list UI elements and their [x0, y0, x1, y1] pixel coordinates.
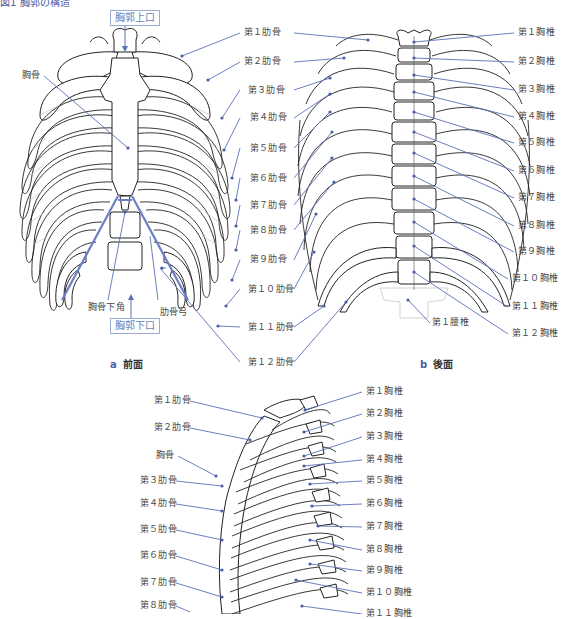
- lateral-t8-label: 第８胸椎: [366, 544, 403, 555]
- lateral-t6-label: 第６胸椎: [366, 498, 403, 509]
- vertebra-t7-label: 第７胸椎: [518, 192, 555, 203]
- rib-5-label: 第５肋骨: [250, 143, 287, 154]
- caption-anterior-letter: a: [110, 359, 117, 370]
- lateral-rib-8-label: 第８肋骨: [140, 600, 177, 611]
- infrasternal-angle-label: 胸骨下角: [88, 302, 125, 313]
- lateral-rib-1-label: 第１肋骨: [154, 395, 191, 406]
- rib-10-label: 第１０肋骨: [248, 284, 294, 295]
- vertebra-t12-label: 第１２胸椎: [512, 328, 558, 339]
- lumbar-l1-label: 第１腰椎: [432, 317, 469, 328]
- lateral-t11-label: 第１１胸椎: [366, 608, 412, 619]
- lateral-t7-label: 第７胸椎: [366, 521, 403, 532]
- vertebra-t4-label: 第４胸椎: [518, 111, 555, 122]
- vertebra-t10-label: 第１０胸椎: [512, 273, 558, 284]
- posterior-view: [294, 30, 530, 362]
- rib-1-label: 第１肋骨: [244, 27, 281, 38]
- lateral-rib-5-label: 第５肋骨: [140, 524, 177, 535]
- rib-4-label: 第４肋骨: [250, 112, 287, 123]
- superior-thoracic-aperture-label: 胸郭上口: [110, 10, 160, 26]
- caption-anterior: a前面: [110, 356, 143, 371]
- sternum-label: 胸骨: [22, 70, 40, 81]
- vertebra-t11-label: 第１１胸椎: [512, 301, 558, 312]
- vertebra-t1-label: 第１胸椎: [518, 27, 555, 38]
- rib-11-label: 第１１肋骨: [248, 322, 294, 333]
- lateral-sternum-label: 胸骨: [156, 450, 174, 461]
- lateral-rib-6-label: 第６肋骨: [140, 550, 177, 561]
- rib-2-label: 第２肋骨: [244, 56, 281, 67]
- inferior-thoracic-aperture-label: 胸郭下口: [110, 318, 160, 334]
- lateral-rib-7-label: 第７肋骨: [140, 577, 177, 588]
- rib-8-label: 第８肋骨: [250, 225, 287, 236]
- lateral-t3-label: 第３胸椎: [366, 431, 403, 442]
- rib-7-label: 第７肋骨: [250, 200, 287, 211]
- anterior-view: [20, 26, 240, 362]
- rib-6-label: 第６肋骨: [250, 173, 287, 184]
- rib-12-label: 第１２肋骨: [248, 357, 294, 368]
- vertebra-t6-label: 第６胸椎: [518, 165, 555, 176]
- caption-posterior: b後面: [420, 356, 453, 371]
- vertebra-t2-label: 第２胸椎: [518, 56, 555, 67]
- vertebra-t5-label: 第５胸椎: [518, 137, 555, 148]
- lateral-rib-4-label: 第４肋骨: [140, 498, 177, 509]
- lateral-t9-label: 第９胸椎: [366, 565, 403, 576]
- caption-anterior-text: 前面: [123, 359, 143, 370]
- lateral-t1-label: 第１胸椎: [366, 386, 403, 397]
- lateral-t5-label: 第５胸椎: [366, 475, 403, 486]
- caption-posterior-text: 後面: [433, 359, 453, 370]
- lateral-rib-3-label: 第３肋骨: [140, 475, 177, 486]
- caption-posterior-letter: b: [420, 359, 427, 370]
- lateral-rib-2-label: 第２肋骨: [154, 422, 191, 433]
- lateral-view: [176, 392, 362, 614]
- vertebra-t3-label: 第３胸椎: [518, 84, 555, 95]
- vertebra-t9-label: 第９胸椎: [518, 246, 555, 257]
- rib-9-label: 第９肋骨: [250, 254, 287, 265]
- vertebra-t8-label: 第８胸椎: [518, 220, 555, 231]
- lateral-t2-label: 第２胸椎: [366, 408, 403, 419]
- rib-3-label: 第３肋骨: [248, 85, 285, 96]
- costal-arch-label: 肋骨弓: [160, 307, 188, 318]
- lateral-t4-label: 第４胸椎: [366, 454, 403, 465]
- lateral-t10-label: 第１０胸椎: [366, 587, 412, 598]
